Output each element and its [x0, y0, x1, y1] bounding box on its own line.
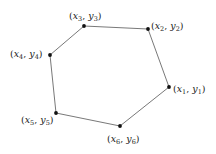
- vertex-point-6: [118, 124, 122, 128]
- vertex-label-2: (x2, y2): [151, 20, 184, 33]
- vertex-label-6: (x6, y6): [107, 133, 140, 146]
- vertex-label-3: (x3, y3): [69, 10, 102, 23]
- vertex-point-1: [167, 85, 171, 89]
- vertex-label-4: (x4, y4): [10, 48, 43, 61]
- vertex-point-2: [146, 27, 150, 31]
- polygon-outline: [50, 26, 169, 126]
- vertex-label-5: (x5, y5): [21, 114, 54, 127]
- vertex-label-1: (x1, y1): [173, 83, 206, 96]
- vertex-group: [48, 24, 171, 128]
- vertex-point-5: [54, 111, 58, 115]
- vertex-point-3: [82, 24, 86, 28]
- hexagon-diagram: (x1, y1)(x2, y2)(x3, y3)(x4, y4)(x5, y5)…: [0, 0, 216, 154]
- vertex-point-4: [48, 53, 52, 57]
- label-group: (x1, y1)(x2, y2)(x3, y3)(x4, y4)(x5, y5)…: [10, 10, 206, 146]
